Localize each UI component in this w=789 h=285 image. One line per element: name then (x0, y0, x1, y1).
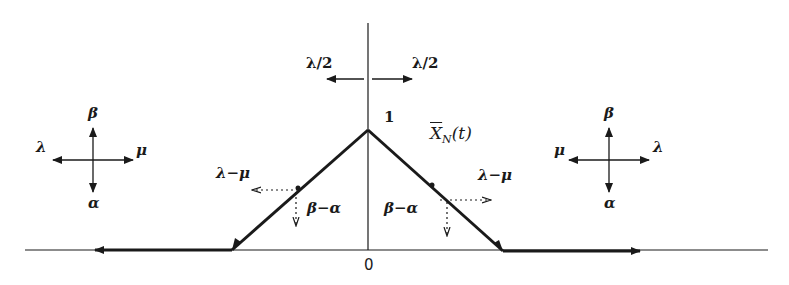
curve-label-arg: (t) (452, 123, 472, 143)
right-horizontal-rate: λ−μ (478, 168, 512, 183)
right-compass-left: μ (554, 143, 565, 158)
left-compass-down: α (88, 196, 100, 211)
left-compass-up: β (88, 106, 98, 121)
top-left-rate-label: λ/2 (306, 56, 332, 71)
diagram-canvas: λ/2 λ/2 1 0 XN(t) λ−μ β−α λ−μ β−α β α λ … (0, 0, 789, 285)
right-vertical-rate: β−α (384, 201, 418, 216)
curve-label-subscript: N (442, 133, 452, 146)
peak-label: 1 (384, 110, 394, 125)
curve-label: XN(t) (430, 125, 472, 142)
left-vertical-rate: β−α (307, 201, 341, 216)
origin-label: 0 (364, 258, 374, 273)
left-compass-left: λ (36, 140, 47, 155)
right-slope (368, 130, 503, 251)
diagram-lines (0, 0, 789, 285)
right-compass-up: β (604, 106, 614, 121)
right-compass-right: λ (653, 140, 664, 155)
left-horizontal-rate: λ−μ (216, 166, 250, 181)
right-compass-down: α (604, 196, 616, 211)
top-right-rate-label: λ/2 (412, 56, 438, 71)
left-compass-right: μ (136, 143, 147, 158)
curve-label-main: X (430, 123, 442, 143)
